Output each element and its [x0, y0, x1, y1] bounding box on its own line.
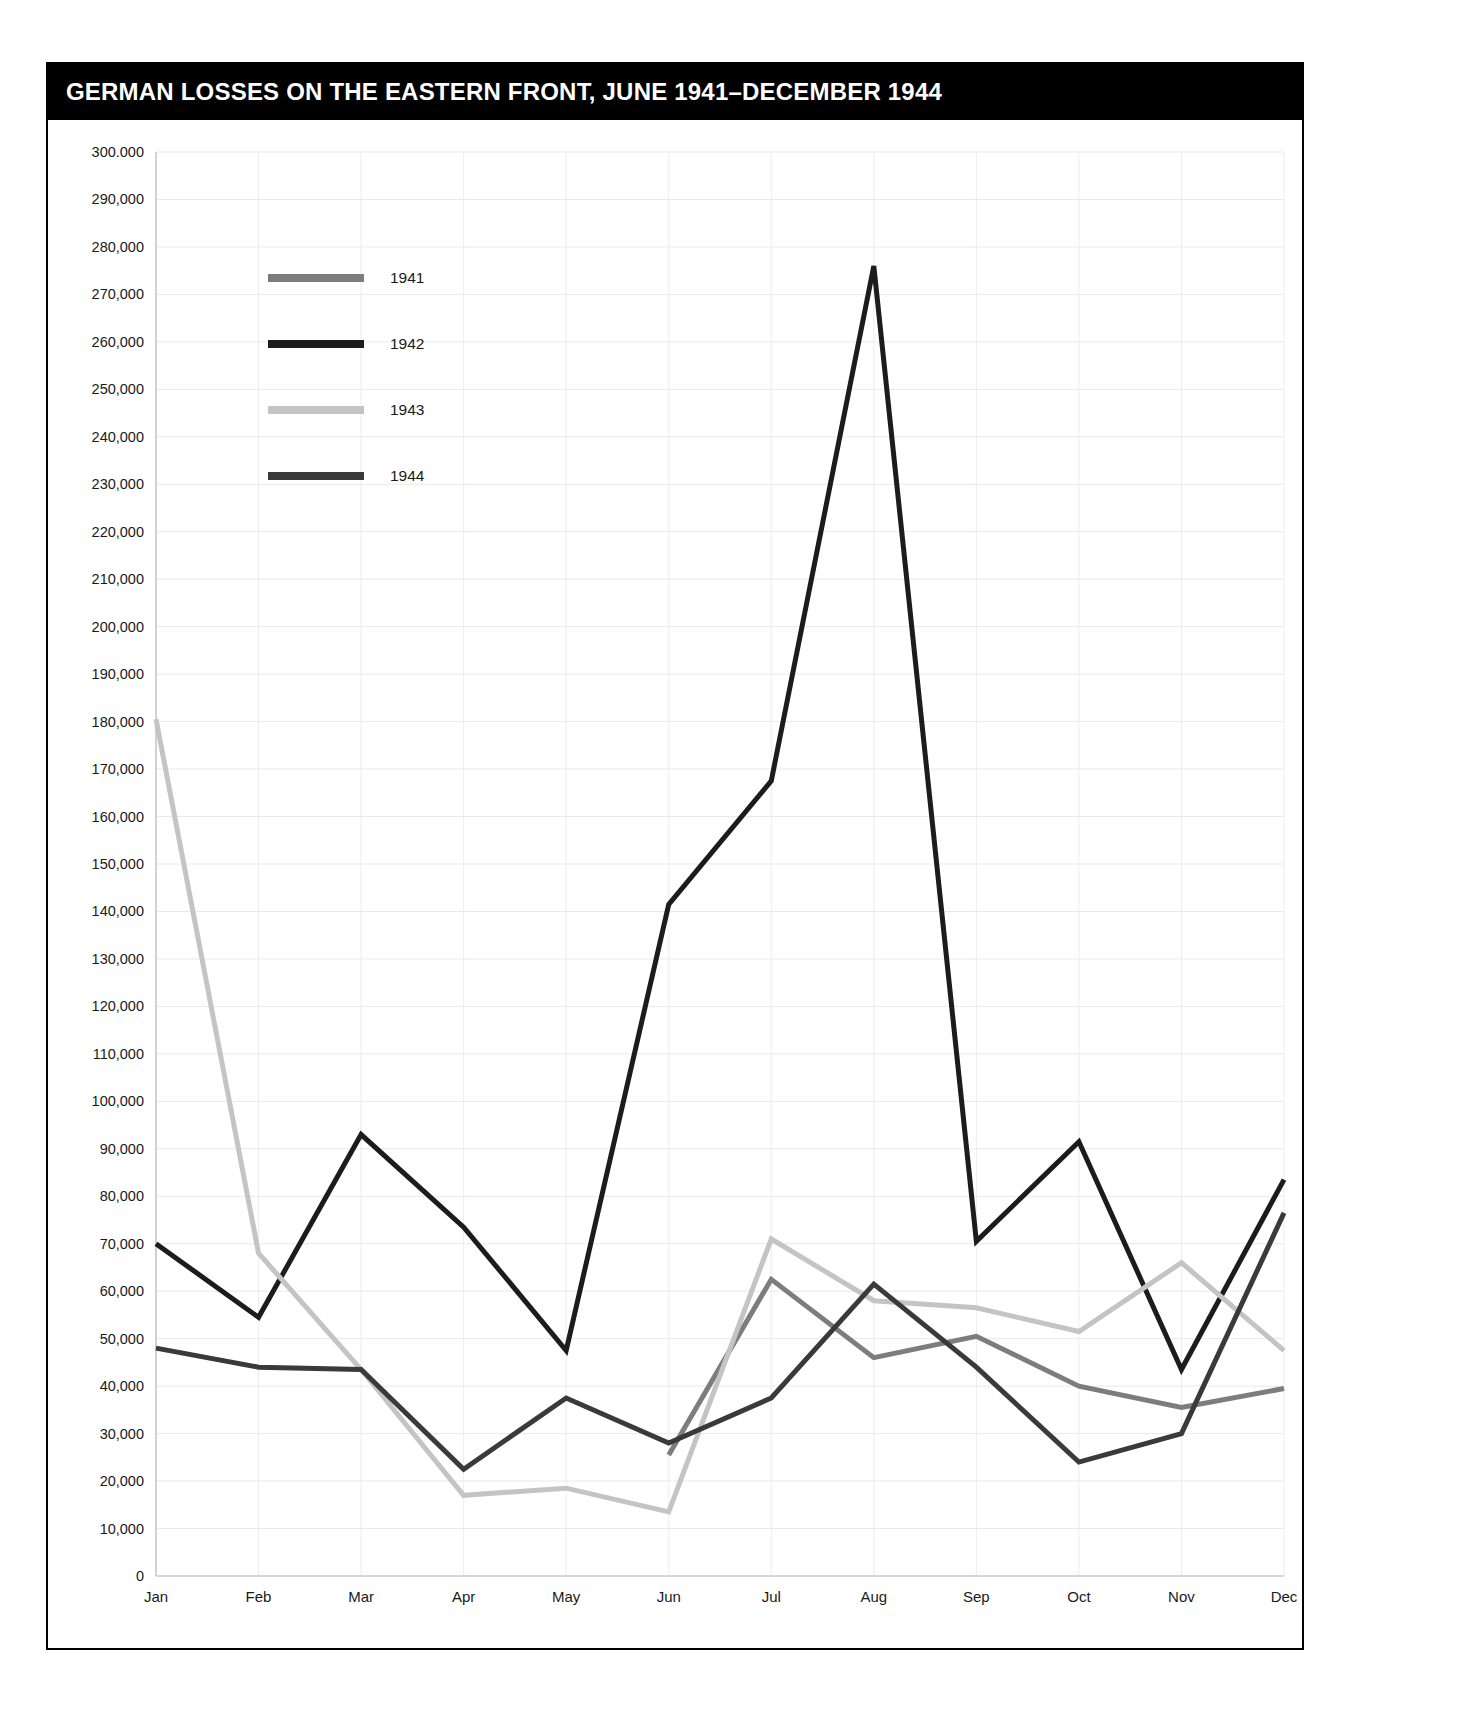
- y-axis-tick-label: 100,000: [92, 1093, 144, 1109]
- x-axis-tick-label: Dec: [1271, 1588, 1298, 1605]
- x-axis-tick-label: Nov: [1168, 1588, 1195, 1605]
- y-axis-tick-labels: 010,00020,00030,00040,00050,00060,00070,…: [92, 144, 144, 1584]
- y-axis-tick-label: 220,000: [92, 524, 144, 540]
- x-axis-tick-label: Oct: [1067, 1588, 1091, 1605]
- y-axis-tick-label: 110,000: [93, 1046, 144, 1062]
- y-axis-tick-label: 90,000: [100, 1141, 144, 1157]
- x-axis-tick-label: Mar: [348, 1588, 374, 1605]
- y-axis-tick-label: 270,000: [92, 286, 144, 302]
- series-lines: [156, 266, 1284, 1512]
- x-axis-tick-label: Apr: [452, 1588, 475, 1605]
- y-axis-tick-label: 280,000: [92, 239, 144, 255]
- x-axis-tick-label: Jun: [657, 1588, 681, 1605]
- y-axis-tick-label: 300.000: [92, 144, 144, 160]
- x-axis-tick-label: May: [552, 1588, 581, 1605]
- legend-label-1941: 1941: [390, 269, 424, 286]
- legend-label-1942: 1942: [390, 335, 424, 352]
- chart-title: GERMAN LOSSES ON THE EASTERN FRONT, JUNE…: [48, 78, 942, 106]
- x-axis-tick-label: Feb: [246, 1588, 272, 1605]
- y-axis-tick-label: 160,000: [92, 809, 144, 825]
- figure-frame: GERMAN LOSSES ON THE EASTERN FRONT, JUNE…: [46, 62, 1304, 1650]
- x-axis-tick-label: Aug: [860, 1588, 887, 1605]
- y-axis-tick-label: 210,000: [92, 571, 144, 587]
- x-axis-tick-label: Sep: [963, 1588, 990, 1605]
- y-axis-tick-label: 40,000: [100, 1378, 144, 1394]
- y-axis-tick-label: 240,000: [92, 429, 144, 445]
- x-axis-tick-labels: JanFebMarAprMayJunJulAugSepOctNovDec: [144, 1588, 1298, 1605]
- title-banner: GERMAN LOSSES ON THE EASTERN FRONT, JUNE…: [48, 64, 1302, 120]
- y-axis-tick-label: 290,000: [92, 191, 144, 207]
- series-line-1942: [156, 266, 1284, 1370]
- legend-label-1943: 1943: [390, 401, 424, 418]
- y-axis-tick-label: 190,000: [92, 666, 144, 682]
- y-axis-tick-label: 140,000: [92, 903, 144, 919]
- y-axis-tick-label: 180,000: [92, 714, 144, 730]
- y-axis-tick-label: 0: [136, 1568, 144, 1584]
- y-axis-tick-label: 30,000: [100, 1426, 144, 1442]
- y-axis-tick-label: 80,000: [100, 1188, 144, 1204]
- y-axis-tick-label: 130,000: [92, 951, 144, 967]
- plot-area: 010,00020,00030,00040,00050,00060,00070,…: [48, 120, 1302, 1648]
- y-axis-tick-label: 50,000: [100, 1331, 144, 1347]
- y-axis-tick-label: 20,000: [100, 1473, 144, 1489]
- y-axis-tick-label: 260,000: [92, 334, 144, 350]
- chart-legend: 1941194219431944: [268, 269, 425, 484]
- chart-canvas: 010,00020,00030,00040,00050,00060,00070,…: [48, 120, 1302, 1648]
- x-axis-tick-label: Jul: [762, 1588, 781, 1605]
- y-axis-tick-label: 230,000: [92, 476, 144, 492]
- y-axis-tick-label: 170,000: [92, 761, 144, 777]
- legend-label-1944: 1944: [390, 467, 425, 484]
- y-axis-tick-label: 150,000: [92, 856, 144, 872]
- series-line-1944: [156, 1213, 1284, 1469]
- y-axis-tick-label: 60,000: [100, 1283, 144, 1299]
- y-axis-tick-label: 70,000: [100, 1236, 144, 1252]
- x-axis-tick-label: Jan: [144, 1588, 168, 1605]
- y-axis-tick-label: 250,000: [92, 381, 144, 397]
- y-axis-tick-label: 10,000: [100, 1521, 144, 1537]
- y-axis-tick-label: 200,000: [92, 619, 144, 635]
- y-axis-tick-label: 120,000: [92, 998, 144, 1014]
